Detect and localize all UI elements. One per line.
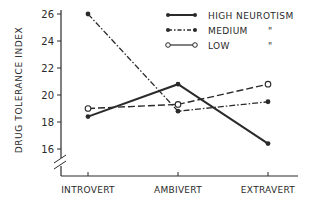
legend-item-medium: MEDIUM" <box>166 26 273 36</box>
y-tick-label: 26 <box>41 9 54 20</box>
data-point-marker <box>176 82 181 87</box>
data-point-marker <box>86 12 91 17</box>
legend-marker <box>166 13 170 17</box>
y-tick-label: 16 <box>41 144 54 155</box>
legend-marker <box>166 43 171 48</box>
data-point-marker <box>85 106 91 112</box>
legend-item-low: LOW" <box>166 41 273 51</box>
data-point-marker <box>175 102 181 108</box>
data-point-marker <box>86 114 91 119</box>
x-tick-label-introvert: INTROVERT <box>61 185 115 195</box>
legend: HIGH NEUROTISMMEDIUM"LOW" <box>166 11 294 51</box>
legend-label: MEDIUM <box>208 26 248 36</box>
legend-label: LOW <box>208 41 230 51</box>
legend-marker <box>193 28 197 32</box>
data-point-marker <box>265 81 271 87</box>
line-chart: 161820222426DRUG TOLERANCE INDEXINTROVER… <box>0 0 314 208</box>
x-tick-label-extravert: EXTRAVERT <box>241 185 296 195</box>
y-tick-label: 22 <box>41 63 54 74</box>
legend-marker <box>166 28 170 32</box>
y-tick-label: 20 <box>41 90 54 101</box>
axes: 161820222426DRUG TOLERANCE INDEXINTROVER… <box>14 9 298 196</box>
legend-marker <box>193 13 197 17</box>
x-tick-label-ambivert: AMBIVERT <box>154 185 202 195</box>
y-axis-title: DRUG TOLERANCE INDEX <box>14 27 24 154</box>
data-point-marker <box>176 109 181 114</box>
legend-label: HIGH NEUROTISM <box>208 11 294 21</box>
legend-ditto-mark: " <box>268 26 273 36</box>
legend-item-high-neurotism: HIGH NEUROTISM <box>166 11 294 21</box>
data-point-marker <box>266 141 271 146</box>
series-line <box>88 84 268 143</box>
legend-marker <box>193 43 198 48</box>
y-tick-label: 18 <box>41 117 54 128</box>
y-tick-label: 24 <box>41 36 54 47</box>
legend-ditto-mark: " <box>268 41 273 51</box>
series-high-neurotism <box>86 82 271 146</box>
data-point-marker <box>266 99 271 104</box>
